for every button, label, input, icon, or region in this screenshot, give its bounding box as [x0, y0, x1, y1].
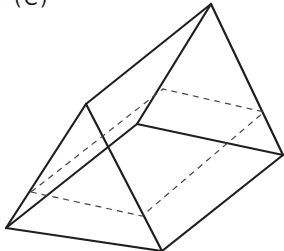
edge-middle-right — [137, 124, 283, 155]
edge-apex-middle — [137, 4, 211, 124]
prism-diagram — [0, 0, 284, 251]
solid-edges — [6, 4, 283, 251]
edge-bottom-right — [162, 155, 283, 251]
edge-left-middle — [6, 124, 137, 228]
edge-left-bottom — [6, 228, 162, 251]
edge-front-top-left — [6, 104, 86, 228]
edge-apex-front-top — [86, 4, 211, 104]
edge-apex-right — [211, 4, 283, 155]
